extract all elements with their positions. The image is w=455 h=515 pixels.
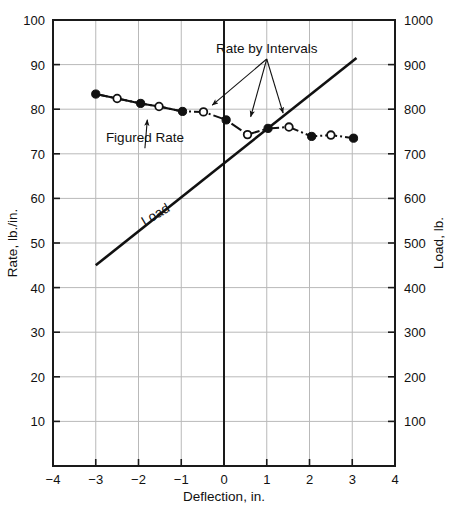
figured-rate-marker — [178, 107, 186, 115]
y-right-tick-label: 600 — [404, 191, 426, 206]
x-tick-label: 1 — [263, 472, 270, 487]
y-right-tick-label: 300 — [404, 325, 426, 340]
rate-by-intervals-marker — [113, 95, 121, 103]
y-right-axis-ticks — [388, 20, 395, 421]
y-right-tick-label: 800 — [404, 102, 426, 117]
figured-rate-marker — [308, 132, 316, 140]
annotation-leader — [267, 59, 283, 113]
y-left-tick-label: 50 — [31, 236, 45, 251]
y-left-tick-label: 90 — [31, 58, 45, 73]
x-axis-title: Deflection, in. — [183, 489, 265, 504]
y-right-tick-label: 500 — [404, 236, 426, 251]
x-axis-ticks — [53, 459, 395, 466]
x-tick-label: 3 — [349, 472, 356, 487]
figured-rate-marker — [349, 134, 357, 142]
rate-by-intervals-marker — [244, 131, 252, 139]
y-left-axis-ticks — [53, 20, 60, 421]
rate-by-intervals-marker — [285, 123, 293, 131]
x-tick-label: −3 — [88, 472, 103, 487]
y-right-tick-label: 400 — [404, 281, 426, 296]
y-left-tick-label: 20 — [31, 370, 45, 385]
y-right-tick-label: 1000 — [404, 13, 433, 28]
y-left-tick-label: 70 — [31, 147, 45, 162]
y-right-tick-label: 100 — [404, 414, 426, 429]
figured-rate-marker — [222, 116, 230, 124]
annotation-leader — [212, 59, 267, 105]
y-left-tick-label: 10 — [31, 414, 45, 429]
x-tick-label: −1 — [174, 472, 189, 487]
rate-by-intervals-marker — [327, 131, 335, 139]
figured-rate-marker — [92, 90, 100, 98]
chart-figure: −4−3−2−101234 102030405060708090100 1002… — [0, 0, 455, 515]
y-left-tick-label: 60 — [31, 191, 45, 206]
x-tick-label: −4 — [46, 472, 61, 487]
annotation-labels: Rate by IntervalsFigured RateLoad — [106, 41, 318, 229]
load-curve-label: Load — [139, 200, 172, 228]
y-right-tick-label: 900 — [404, 58, 426, 73]
y-right-axis-title: Load, lb. — [431, 217, 446, 269]
rate-by-intervals-marker — [155, 103, 163, 111]
annotation-text: Figured Rate — [106, 130, 184, 145]
annotation-leader — [251, 59, 267, 117]
y-right-tick-label: 200 — [404, 370, 426, 385]
y-left-tick-label: 40 — [31, 281, 45, 296]
load-line — [96, 58, 357, 265]
figured-rate-marker — [264, 124, 272, 132]
annotation-text: Rate by Intervals — [216, 41, 318, 56]
figured-rate-marker — [137, 99, 145, 107]
y-right-axis-tick-labels: 1002003004005006007008009001000 — [404, 13, 433, 429]
x-axis-tick-labels: −4−3−2−101234 — [46, 472, 399, 487]
deflection-rate-load-chart: −4−3−2−101234 102030405060708090100 1002… — [0, 0, 455, 515]
y-left-axis-title: Rate, lb./in. — [5, 209, 20, 277]
x-tick-label: 0 — [220, 472, 227, 487]
y-left-axis-tick-labels: 102030405060708090100 — [23, 13, 45, 429]
y-left-tick-label: 100 — [23, 13, 45, 28]
rate-by-intervals-marker — [200, 108, 208, 116]
x-tick-label: 2 — [306, 472, 313, 487]
y-left-tick-label: 30 — [31, 325, 45, 340]
y-right-tick-label: 700 — [404, 147, 426, 162]
x-tick-label: −2 — [131, 472, 146, 487]
x-tick-label: 4 — [391, 472, 398, 487]
y-left-tick-label: 80 — [31, 102, 45, 117]
